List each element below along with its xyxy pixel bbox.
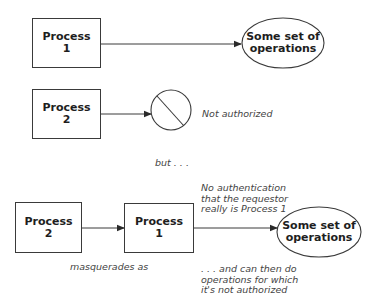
- operations-line2: operations: [250, 43, 317, 55]
- not-authorized-label: Not authorized: [202, 109, 272, 120]
- process-number: 1: [155, 228, 163, 240]
- process-1-box-top: Process 1: [32, 18, 101, 68]
- note-line: it's not authorized: [201, 285, 298, 296]
- process-2-box-middle: Process 2: [32, 89, 101, 139]
- process-2-box-impostor: Process 2: [15, 202, 82, 253]
- no-authentication-note: No authentication that the requestor rea…: [201, 183, 288, 215]
- unauthorized-operations-note: . . . and can then do operations for whi…: [201, 264, 298, 296]
- note-line: No authentication: [201, 183, 288, 194]
- process-number: 1: [63, 43, 71, 55]
- process-1-box-masked: Process 1: [124, 203, 194, 253]
- operations-label-top: Some set of operations: [242, 18, 324, 68]
- masquerades-as-label: masquerades as: [70, 262, 148, 273]
- process-label: Process: [24, 216, 72, 228]
- operations-label-bottom: Some set of operations: [277, 207, 361, 257]
- but-separator: but . . .: [155, 158, 189, 169]
- process-number: 2: [63, 114, 71, 126]
- note-line: really is Process 1: [201, 204, 288, 215]
- prohibited-circle-icon: [151, 90, 191, 130]
- process-number: 2: [45, 228, 53, 240]
- note-line: . . . and can then do: [201, 264, 298, 275]
- operations-line2: operations: [286, 232, 353, 244]
